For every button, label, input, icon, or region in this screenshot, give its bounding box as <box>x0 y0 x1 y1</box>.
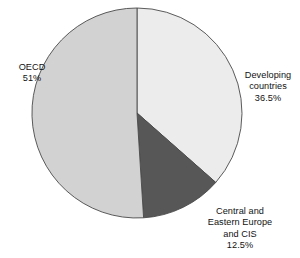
slice-label-oecd-value: 51% <box>4 73 60 84</box>
pie-slice-group <box>32 8 242 218</box>
slice-label-developing-countries: Developing countries 36.5% <box>236 70 300 104</box>
slice-label-central-eastern-europe-cis: Central and Eastern Europe and CIS 12.5% <box>184 206 296 252</box>
slice-label-developing-line2: countries <box>236 81 300 92</box>
slice-label-developing-line1: Developing <box>236 70 300 81</box>
slice-label-cee-line2: Eastern Europe <box>184 217 296 228</box>
slice-label-oecd: OECD 51% <box>4 62 60 85</box>
slice-label-cee-line1: Central and <box>184 206 296 217</box>
pie-chart: OECD 51% Developing countries 36.5% Cent… <box>0 0 300 258</box>
slice-label-developing-value: 36.5% <box>236 93 300 104</box>
slice-label-cee-line3: and CIS <box>184 229 296 240</box>
pie-slice <box>32 8 144 218</box>
slice-label-cee-value: 12.5% <box>184 240 296 251</box>
slice-label-oecd-name: OECD <box>4 62 60 73</box>
